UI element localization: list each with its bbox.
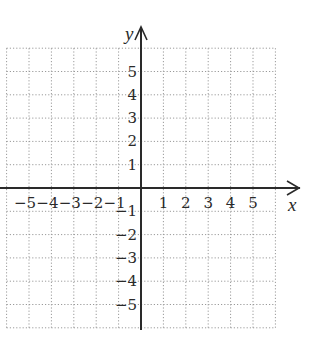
x-tick-label: 1	[159, 194, 169, 212]
y-tick-label: 2	[127, 132, 137, 150]
y-tick-label: −1	[115, 202, 137, 220]
y-tick-label: 5	[127, 63, 137, 81]
x-tick-label: 2	[181, 194, 191, 212]
coordinate-plane: y x −5−4−3−2−112345 54321−1−2−3−4−5	[0, 0, 328, 348]
y-tick-label: −3	[115, 249, 137, 267]
y-tick-label: 4	[127, 86, 137, 104]
y-tick-label: −5	[115, 296, 137, 314]
x-tick-label: −4	[36, 194, 58, 212]
y-tick-label: 1	[127, 156, 137, 174]
x-tick-label: 5	[248, 194, 258, 212]
y-tick-label: −2	[115, 226, 137, 244]
x-tick-label: 3	[203, 194, 213, 212]
x-tick-label: −2	[81, 194, 103, 212]
y-axis-label: y	[123, 23, 134, 44]
x-tick-label: −3	[59, 194, 81, 212]
y-tick-label: 3	[127, 109, 137, 127]
x-tick-label: −5	[14, 194, 36, 212]
y-tick-label: −4	[115, 272, 137, 290]
x-tick-label: 4	[226, 194, 236, 212]
x-axis-label: x	[287, 194, 297, 215]
